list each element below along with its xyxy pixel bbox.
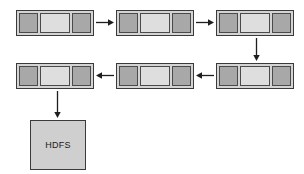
buffer-cell-dark: [172, 66, 191, 86]
buffer-cell-dark: [119, 66, 138, 86]
flow-arrow-left: [96, 70, 114, 81]
buffer-cell-light: [140, 66, 170, 86]
buffer-cell-light: [240, 66, 270, 86]
buffer-cell-dark: [272, 13, 291, 33]
buffer-block: [216, 63, 294, 89]
buffer-block: [116, 10, 194, 36]
diagram-canvas: HDFS: [0, 0, 304, 174]
buffer-cell-dark: [72, 13, 91, 33]
buffer-block: [116, 63, 194, 89]
flow-arrow-down: [52, 91, 63, 118]
flow-arrow-right: [196, 17, 214, 28]
buffer-cell-dark: [172, 13, 191, 33]
buffer-cell-dark: [119, 13, 138, 33]
buffer-cell-light: [140, 13, 170, 33]
buffer-cell-dark: [219, 66, 238, 86]
buffer-cell-light: [40, 13, 70, 33]
buffer-cell-dark: [72, 66, 91, 86]
buffer-cell-dark: [272, 66, 291, 86]
buffer-cell-light: [240, 13, 270, 33]
flow-arrow-right: [96, 17, 114, 28]
buffer-cell-dark: [219, 13, 238, 33]
buffer-cell-light: [40, 66, 70, 86]
flow-arrow-down: [251, 38, 262, 61]
buffer-cell-dark: [19, 66, 38, 86]
hdfs-store-box: HDFS: [30, 120, 86, 170]
buffer-block: [216, 10, 294, 36]
buffer-block: [16, 10, 94, 36]
hdfs-store-label: HDFS: [45, 140, 71, 150]
buffer-block: [16, 63, 94, 89]
flow-arrow-left: [196, 70, 214, 81]
buffer-cell-dark: [19, 13, 38, 33]
